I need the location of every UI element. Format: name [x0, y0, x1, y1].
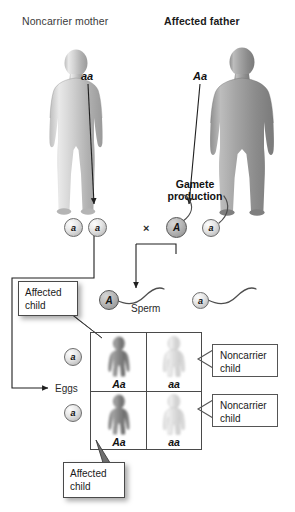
cross-symbol: × — [143, 222, 149, 234]
callout-affected-bot-line1: Affected — [70, 467, 119, 480]
father-gamete-a: a — [202, 219, 220, 237]
callout-noncarrier-bot-line1: Noncarrier — [220, 399, 272, 412]
father-genotype-label: Aa — [193, 70, 207, 82]
sperm-axis-label: Sperm — [131, 303, 160, 314]
callout-noncarrier-bot-line2: child — [220, 412, 272, 425]
egg-gamete-row2: a — [64, 404, 82, 422]
mother-title: Noncarrier mother — [22, 15, 108, 27]
father-gamete-A: A — [166, 217, 187, 238]
punnett-genotype-r1c2: aa — [153, 378, 195, 390]
callout-noncarrier-child-bottom: Noncarrier child — [212, 394, 278, 427]
punnett-child-figure-r1c2 — [159, 336, 189, 378]
callout-noncarrier-top-line2: child — [220, 362, 272, 375]
sperm-gamete-a: a — [192, 292, 209, 309]
punnett-child-figure-r2c1 — [104, 394, 134, 436]
gamete-title-line1: Gamete — [152, 178, 238, 190]
callout-affected-bot-line2: child — [70, 480, 119, 493]
mother-gamete-1: a — [64, 218, 83, 237]
callout-affected-child-bottom: Affected child — [63, 462, 125, 498]
punnett-child-figure-r1c1 — [104, 336, 134, 378]
sperm-row-flagella — [100, 283, 280, 315]
father-title: Affected father — [164, 15, 240, 27]
genetics-diagram-canvas: Noncarrier mother Affected father — [0, 0, 295, 512]
callout-noncarrier-top-line1: Noncarrier — [220, 349, 272, 362]
punnett-genotype-r2c2: aa — [153, 436, 195, 448]
punnett-child-figure-r2c2 — [159, 394, 189, 436]
eggs-axis-label: Eggs — [55, 383, 78, 394]
egg-gamete-row1: a — [64, 348, 82, 366]
mother-gamete-2: a — [88, 218, 107, 237]
punnett-horizontal-divider — [91, 391, 201, 392]
callout-affected-child-top: Affected child — [18, 281, 78, 316]
mother-genotype-arrow — [70, 82, 110, 214]
callout-affected-top-line1: Affected — [25, 286, 72, 299]
mother-genotype-label: aa — [81, 70, 93, 82]
callout-noncarrier-child-top: Noncarrier child — [212, 344, 278, 377]
callout-affected-top-line2: child — [25, 299, 72, 312]
punnett-genotype-r1c1: Aa — [98, 378, 140, 390]
